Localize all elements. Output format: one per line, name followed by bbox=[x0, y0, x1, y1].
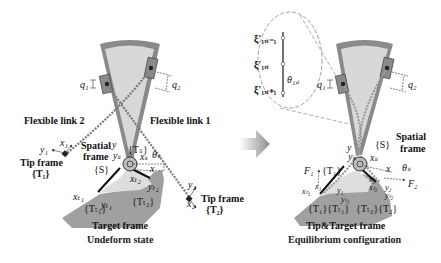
tt2-label: {Tₜ₂} bbox=[132, 196, 154, 207]
target-frame-label: Target frame bbox=[92, 220, 149, 231]
q1-label: q₁ bbox=[317, 79, 325, 90]
xt1-label: xₜ₁ bbox=[72, 191, 84, 202]
theta-1i-label: θ₁,ᵢ bbox=[287, 74, 300, 85]
y1-label: y₁ bbox=[39, 144, 48, 155]
q2-dimension bbox=[390, 72, 408, 92]
q1-label: q₁ bbox=[80, 79, 88, 90]
spatial-frame-label-1: Spatial bbox=[81, 140, 111, 151]
x1-label: x₁ bbox=[59, 137, 68, 148]
T1-label: {T₁} bbox=[322, 165, 341, 176]
q2-dimension bbox=[155, 72, 172, 92]
tip-frame-2-symbol: {T₂} bbox=[206, 204, 224, 215]
q2-label: q₂ bbox=[172, 79, 181, 90]
theta-s-label: θₛ bbox=[152, 149, 161, 160]
tip-target-right-label: {Tₜ₂}{T₂} bbox=[356, 203, 397, 214]
x1-label: x₁ bbox=[314, 182, 322, 191]
spatial-frame-label-2: frame bbox=[83, 151, 109, 162]
yt2-label: yₜ₂ bbox=[147, 181, 159, 192]
spatial-frame-label-1: Spatial bbox=[396, 131, 426, 142]
tip-frame-1-title: Tip frame bbox=[20, 157, 63, 168]
F2-label: F₂ bbox=[407, 178, 418, 189]
right-caption: Equilibrium configuration bbox=[288, 234, 402, 245]
actuator-pin-2 bbox=[149, 66, 153, 70]
q1-dimension bbox=[90, 80, 96, 88]
xt1-label: xₜ₁ bbox=[301, 187, 311, 196]
y-label: y bbox=[111, 139, 117, 150]
x-label: x bbox=[385, 163, 391, 174]
y1-axis bbox=[52, 150, 65, 153]
ys-label: yₛ bbox=[347, 151, 356, 162]
left-caption: Undeform state bbox=[87, 234, 154, 245]
node-i bbox=[281, 62, 285, 66]
transition-arrow-icon bbox=[240, 130, 270, 158]
xi-prev-label: ξ′₁,ᵢ₋₁ bbox=[254, 33, 277, 45]
flexible-link-1-label: Flexible link 1 bbox=[150, 115, 211, 126]
tip-target-left-label: {T₁}{Tₜ₁} bbox=[308, 203, 349, 214]
xt2-label: xₜ₂ bbox=[368, 183, 378, 192]
F2-arrow bbox=[384, 178, 405, 180]
spatial-frame-symbol: {S} bbox=[94, 164, 109, 175]
q1-dimension bbox=[327, 80, 333, 88]
spatial-frame-label-2: frame bbox=[400, 143, 426, 154]
y1-label: y₁ bbox=[336, 186, 344, 195]
tip-frame-1-symbol: {T₁} bbox=[32, 168, 50, 179]
xs-label: xₛ bbox=[139, 151, 148, 162]
xi-i-label: ξ′₁,ᵢ bbox=[254, 59, 269, 71]
right-panel: ξ′₁,ᵢ₋₁ ξ′₁,ᵢ ξ′₁,ᵢ₊₁ θ₁,ᵢ q₁ q₂ Spatial… bbox=[254, 12, 426, 245]
y2-label: y₂ bbox=[187, 179, 196, 190]
ys-label: yₛ bbox=[112, 150, 121, 161]
tip-frame-2-title: Tip frame bbox=[201, 193, 244, 204]
node-next bbox=[281, 91, 285, 95]
x-label: x bbox=[149, 163, 155, 174]
node-prev bbox=[281, 36, 285, 40]
spatial-frame-symbol: {S} bbox=[375, 139, 390, 150]
flexible-link-2-label: Flexible link 2 bbox=[24, 115, 85, 126]
diagram-canvas: q₁ q₂ Flexible link 2 Flexible link 1 x₁… bbox=[0, 0, 441, 263]
tip-target-frame-label: Tip&Target frame bbox=[306, 220, 386, 231]
xt2-label: xₜ₂ bbox=[129, 173, 141, 184]
actuator-pin-1 bbox=[341, 82, 345, 86]
theta-s-guide bbox=[133, 164, 164, 171]
x2-label: x₂ bbox=[186, 198, 195, 209]
left-panel: q₁ q₂ Flexible link 2 Flexible link 1 x₁… bbox=[20, 40, 244, 245]
F1-label: F₁ bbox=[303, 165, 314, 176]
tt1-label: {Tₜ₁} bbox=[84, 203, 106, 214]
yt2-label: yₜ₂ bbox=[384, 191, 394, 200]
actuator-pin-1 bbox=[105, 82, 109, 86]
theta-s-label: θₛ bbox=[402, 162, 411, 173]
actuator-pin-2 bbox=[385, 66, 389, 70]
q2-label: q₂ bbox=[408, 79, 417, 90]
xs-label: xₛ bbox=[369, 152, 378, 163]
xi-next-label: ξ′₁,ᵢ₊₁ bbox=[254, 84, 277, 96]
